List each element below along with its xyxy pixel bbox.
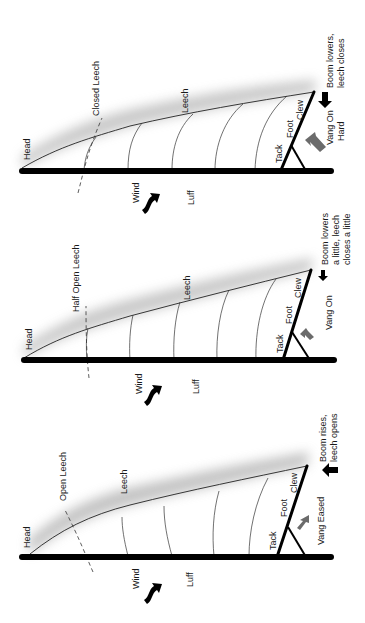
batten [128,123,142,170]
label-vang-1: Vang On [325,110,335,145]
wind-arrow-icon [144,583,162,604]
label-luff: Luff [191,379,201,394]
label-foot: Foot [285,119,295,138]
boom-down-arrow-icon [318,270,328,281]
leech-shadow [28,452,309,554]
batten [174,302,180,360]
label-leech-state: Half Open Leech [71,244,81,312]
vang [291,145,306,171]
label-head: Head [24,328,34,350]
leech-line [24,270,311,358]
label-clew: Clew [293,277,303,298]
label-clew: Clew [289,472,299,493]
batten [172,114,193,170]
label-vang-2: Hard [336,121,346,141]
batten [217,290,229,360]
label-head: Head [22,526,32,548]
vang [288,527,306,557]
label-leech-state: Open Leech [58,452,68,501]
panel-vang-on-hard: Head Closed Leech Leech Wind Luff Tack F… [22,33,346,214]
batten [130,315,133,360]
batten [122,517,128,556]
label-leech: Leech [119,469,129,494]
label-effect-3: closes a little [342,213,352,265]
label-vang-1: Vang On [324,295,334,330]
batten [84,137,96,170]
label-wind: Wind [131,568,141,589]
vang-tension-arrow-icon [305,132,326,152]
label-clew: Clew [295,99,305,120]
batten [213,491,219,556]
label-luff: Luff [185,572,195,587]
batten [215,104,243,170]
wind-arrow-icon [144,385,162,406]
leech-shadow [24,258,313,358]
label-head: Head [22,138,32,160]
vang-tension-arrow-icon [300,328,314,340]
boom-up-arrow-icon [322,463,338,477]
panel-vang-on: Head Half Open Leech Leech Wind Luff Tac… [24,212,352,406]
label-foot: Foot [284,305,294,324]
label-vang-1: Vang Eased [316,497,326,545]
boom-down-arrow-icon [318,92,332,108]
batten [249,478,268,556]
label-foot: Foot [279,498,289,517]
label-tack: Tack [275,334,285,353]
label-effect-2: leech closes [336,38,346,88]
label-effect-1: Boom lowers [320,212,330,265]
label-effect-1: Boom rises, [318,414,328,462]
label-wind: Wind [134,373,144,394]
label-tack: Tack [268,531,278,550]
sail-diagram: Head Closed Leech Leech Wind Luff Tack F… [0,0,365,623]
batten [256,279,276,360]
label-effect-1: Boom lowers, [325,33,335,88]
label-effect-2: a little, leech [331,215,341,265]
label-wind: Wind [131,182,141,203]
batten [164,506,172,556]
leech-shadow [22,80,316,168]
label-tack: Tack [274,144,284,163]
label-leech: Leech [182,275,192,300]
label-leech-state: Closed Leech [91,61,101,116]
wind-arrow-icon [142,193,160,214]
label-leech: Leech [180,88,190,113]
label-effect-2: leech opens [329,413,339,462]
panel-vang-eased: Head Open Leech Leech Wind Luff Tack Foo… [22,413,339,604]
label-luff: Luff [186,190,196,205]
vang-eased-arrow-icon [297,515,309,530]
